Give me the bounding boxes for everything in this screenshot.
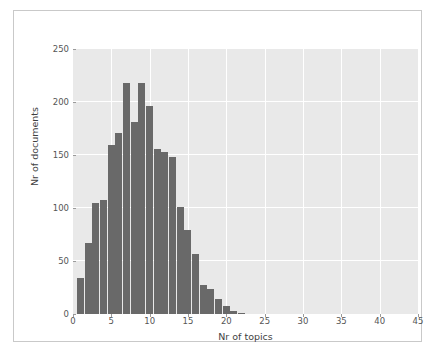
x-tick-mark: [111, 314, 112, 317]
histogram-bar: [200, 285, 207, 314]
x-tick-label: 15: [173, 317, 203, 326]
figure-frame: 050100150200250 051015202530354045 Nr of…: [13, 10, 422, 342]
y-tick-mark: [73, 155, 76, 156]
x-tick-mark: [303, 314, 304, 317]
histogram-bar: [146, 106, 153, 314]
histogram-bar: [207, 289, 214, 314]
x-axis-label: Nr of topics: [73, 331, 418, 342]
x-tick-label: 10: [135, 317, 165, 326]
x-tick-label: 45: [403, 317, 433, 326]
y-tick-mark: [73, 102, 76, 103]
histogram-bar: [131, 122, 138, 314]
y-tick-mark: [73, 49, 76, 50]
histogram-bar: [154, 149, 161, 314]
x-tick-mark: [341, 314, 342, 317]
x-tick-mark: [418, 314, 419, 317]
x-tick-label: 25: [250, 317, 280, 326]
x-axis-tick-labels: 051015202530354045: [73, 317, 418, 331]
y-tick-mark: [73, 208, 76, 209]
histogram-bar: [238, 313, 245, 314]
histogram-bar: [100, 200, 107, 314]
histogram-bar: [177, 207, 184, 314]
x-tick-label: 20: [211, 317, 241, 326]
histogram-bars: [73, 49, 418, 314]
y-axis-tick-labels: 050100150200250: [19, 49, 69, 314]
histogram-bar: [85, 243, 92, 314]
histogram-bar: [223, 306, 230, 314]
histogram-bar: [161, 152, 168, 314]
x-tick-label: 35: [326, 317, 356, 326]
histogram-bar: [108, 145, 115, 314]
x-tick-mark: [188, 314, 189, 317]
histogram-bar: [123, 83, 130, 314]
x-tick-label: 40: [365, 317, 395, 326]
histogram-bar: [169, 157, 176, 314]
x-tick-mark: [226, 314, 227, 317]
histogram-bar: [115, 133, 122, 314]
histogram-bar: [138, 83, 145, 314]
y-tick-mark: [73, 261, 76, 262]
histogram-bar: [92, 203, 99, 314]
histogram-bar: [192, 254, 199, 314]
x-tick-mark: [380, 314, 381, 317]
x-tick-label: 30: [288, 317, 318, 326]
y-tick-label: 50: [25, 257, 69, 266]
x-tick-label: 5: [96, 317, 126, 326]
x-tick-label: 0: [58, 317, 88, 326]
histogram-bar: [184, 230, 191, 314]
x-tick-mark: [150, 314, 151, 317]
histogram-bar: [215, 299, 222, 314]
y-axis-label: Nr of documents: [29, 67, 40, 227]
y-tick-label: 250: [25, 45, 69, 54]
histogram-bar: [230, 311, 237, 314]
x-tick-mark: [73, 314, 74, 317]
plot-area: [73, 49, 418, 314]
histogram-bar: [77, 278, 84, 314]
x-tick-mark: [265, 314, 266, 317]
